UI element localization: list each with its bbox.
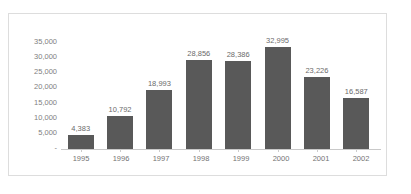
- bar-slot[interactable]: 10,792: [100, 34, 139, 149]
- y-axis: -5,00010,00015,00020,00025,00030,00035,0…: [15, 42, 57, 148]
- bar-slot[interactable]: 32,995: [258, 34, 297, 149]
- y-axis-tick-label: 20,000: [34, 83, 57, 91]
- x-axis: 19951996199719981999200020012002: [61, 154, 381, 163]
- x-axis-tick-mark: [356, 149, 357, 152]
- bar-value-label: 18,993: [148, 79, 171, 88]
- page-canvas: -5,00010,00015,00020,00025,00030,00035,0…: [0, 0, 411, 194]
- bar-value-label: 16,587: [345, 87, 368, 96]
- bar-value-label: 32,995: [266, 36, 289, 45]
- x-axis-tick-label: 1996: [101, 154, 141, 163]
- x-axis-tick-label: 2001: [301, 154, 341, 163]
- bar-series: 4,38310,79218,99328,85628,38632,99523,22…: [61, 34, 376, 149]
- x-axis-tick-mark: [278, 149, 279, 152]
- chart-frame: -5,00010,00015,00020,00025,00030,00035,0…: [8, 13, 387, 176]
- bar-value-label: 4,383: [71, 124, 90, 133]
- bar-value-label: 28,856: [187, 49, 210, 58]
- bar[interactable]: [225, 61, 251, 149]
- x-axis-tick-mark: [159, 149, 160, 152]
- bar[interactable]: [146, 90, 172, 149]
- y-axis-tick-label: 30,000: [34, 53, 57, 61]
- x-axis-tick-label: 1999: [221, 154, 261, 163]
- bar[interactable]: [265, 47, 291, 149]
- x-axis-tick-label: 1998: [181, 154, 221, 163]
- x-axis-tick-mark: [199, 149, 200, 152]
- bar-slot[interactable]: 16,587: [337, 34, 376, 149]
- bar-slot[interactable]: 23,226: [297, 34, 336, 149]
- bar-value-label: 10,792: [109, 105, 132, 114]
- chart-plot-wrapper: -5,00010,00015,00020,00025,00030,00035,0…: [9, 14, 386, 175]
- bar-slot[interactable]: 28,856: [179, 34, 218, 149]
- bar[interactable]: [343, 98, 369, 149]
- bar-value-label: 28,386: [227, 50, 250, 59]
- bar[interactable]: [107, 116, 133, 149]
- x-axis-tick-label: 2002: [341, 154, 381, 163]
- bar-slot[interactable]: 18,993: [140, 34, 179, 149]
- y-axis-tick-label: 25,000: [34, 68, 57, 76]
- y-axis-tick-label: 15,000: [34, 99, 57, 107]
- y-axis-tick-label: 10,000: [34, 114, 57, 122]
- x-axis-tick-label: 2000: [261, 154, 301, 163]
- plot-area: 4,38310,79218,99328,85628,38632,99523,22…: [61, 34, 376, 149]
- y-axis-tick-label: 5,000: [38, 129, 57, 137]
- x-axis-tick-mark: [238, 149, 239, 152]
- bar[interactable]: [304, 77, 330, 149]
- x-axis-tick-label: 1997: [141, 154, 181, 163]
- x-axis-tick-label: 1995: [61, 154, 101, 163]
- x-axis-tick-mark: [81, 149, 82, 152]
- bar-slot[interactable]: 28,386: [219, 34, 258, 149]
- y-axis-tick-label: -: [55, 144, 58, 152]
- bar-value-label: 23,226: [305, 66, 328, 75]
- bar[interactable]: [68, 135, 94, 149]
- x-axis-tick-mark: [120, 149, 121, 152]
- bar-slot[interactable]: 4,383: [61, 34, 100, 149]
- x-axis-tick-mark: [317, 149, 318, 152]
- y-axis-tick-label: 35,000: [34, 38, 57, 46]
- bar[interactable]: [186, 60, 212, 149]
- x-axis-baseline: [61, 149, 381, 150]
